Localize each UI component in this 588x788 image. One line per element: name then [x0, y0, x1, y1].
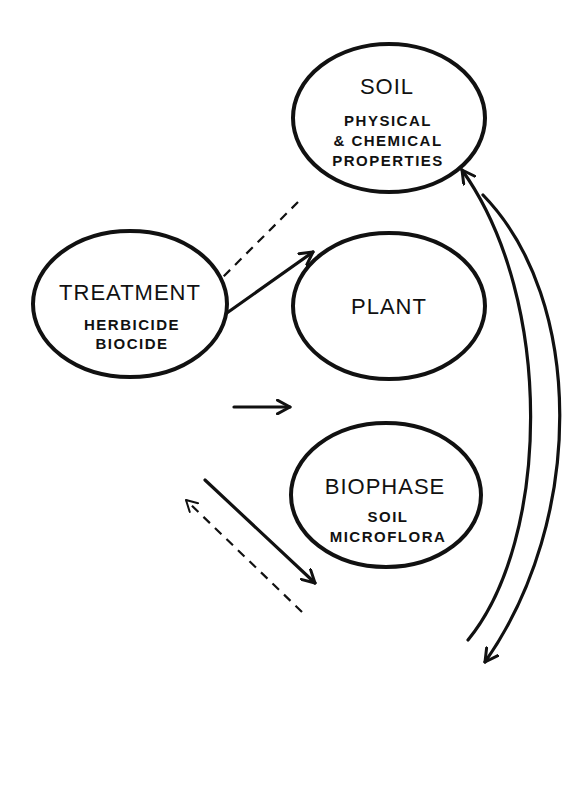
node-biophase: BIOPHASE SOIL MICROFLORA [291, 423, 481, 567]
treatment-title: TREATMENT [59, 280, 201, 305]
node-soil: SOIL PHYSICAL & CHEMICAL PROPERTIES [293, 44, 485, 192]
biophase-title: BIOPHASE [325, 474, 445, 499]
edge-biophase-to-soil-curved [462, 170, 531, 640]
biophase-subtitle-line-1: SOIL [367, 508, 408, 525]
plant-title: PLANT [351, 294, 427, 319]
node-plant: PLANT [293, 233, 485, 379]
soil-subtitle-line-3: PROPERTIES [332, 152, 444, 169]
soil-subtitle-line-2: & CHEMICAL [333, 132, 442, 149]
treatment-subtitle-line-2: BIOCIDE [95, 335, 168, 352]
biophase-subtitle-line-2: MICROFLORA [330, 528, 447, 545]
soil-subtitle-line-1: PHYSICAL [344, 112, 432, 129]
edge-soil-to-biophase-curved [483, 195, 560, 662]
node-treatment: TREATMENT HERBICIDE BIOCIDE [33, 231, 227, 377]
soil-title: SOIL [360, 74, 414, 99]
interaction-diagram: SOIL PHYSICAL & CHEMICAL PROPERTIES TREA… [0, 0, 588, 788]
treatment-subtitle-line-1: HERBICIDE [84, 316, 180, 333]
